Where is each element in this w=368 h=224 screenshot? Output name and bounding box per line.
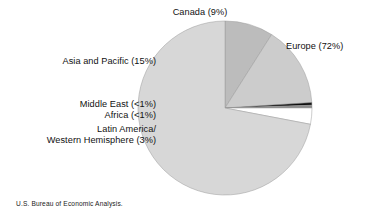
pie-label-canada: Canada (9%)	[148, 7, 252, 18]
pie-label-latin-america-line1: Latin America/	[97, 124, 156, 134]
pie-chart-figure: Canada (9%) Europe (72%) Asia and Pacifi…	[0, 0, 368, 224]
pie-label-latin-america-western-hemisphere: Latin America/Western Hemisphere (3%)	[10, 124, 156, 146]
pie-label-africa: Africa (<1%)	[26, 110, 156, 121]
pie-label-europe: Europe (72%)	[286, 41, 368, 52]
pie-label-middle-east: Middle East (<1%)	[26, 99, 156, 110]
pie-label-asia-and-pacific: Asia and Pacific (15%)	[30, 56, 156, 67]
pie-label-latin-america-line2: Western Hemisphere (3%)	[47, 135, 156, 145]
source-note: U.S. Bureau of Economic Analysis.	[16, 200, 123, 207]
